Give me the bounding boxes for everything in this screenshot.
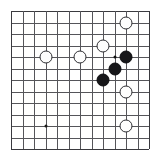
white-stone[interactable]	[120, 85, 133, 98]
go-diagram-screenshot	[0, 0, 161, 158]
go-board[interactable]	[0, 0, 161, 158]
black-stone[interactable]	[120, 51, 133, 64]
board-grid-line-vertical	[11, 11, 12, 149]
white-stone[interactable]	[39, 51, 52, 64]
white-stone[interactable]	[97, 39, 110, 52]
board-grid-line-vertical	[138, 11, 139, 149]
white-stone[interactable]	[120, 120, 133, 133]
board-marker-dot	[113, 56, 116, 59]
board-grid-line-vertical	[80, 11, 81, 149]
board-grid-line-vertical	[23, 11, 24, 149]
board-grid-line-horizontal	[11, 149, 149, 150]
board-star-point	[44, 125, 47, 128]
board-grid-line-vertical	[149, 11, 150, 149]
white-stone[interactable]	[120, 16, 133, 29]
board-grid-line-vertical	[57, 11, 58, 149]
board-grid-line-vertical	[46, 11, 47, 149]
board-grid-line-vertical	[92, 11, 93, 149]
board-grid-line-vertical	[69, 11, 70, 149]
board-grid-line-vertical	[115, 11, 116, 149]
black-stone[interactable]	[108, 62, 121, 75]
white-stone[interactable]	[74, 51, 87, 64]
board-grid-line-vertical	[34, 11, 35, 149]
black-stone[interactable]	[97, 74, 110, 87]
